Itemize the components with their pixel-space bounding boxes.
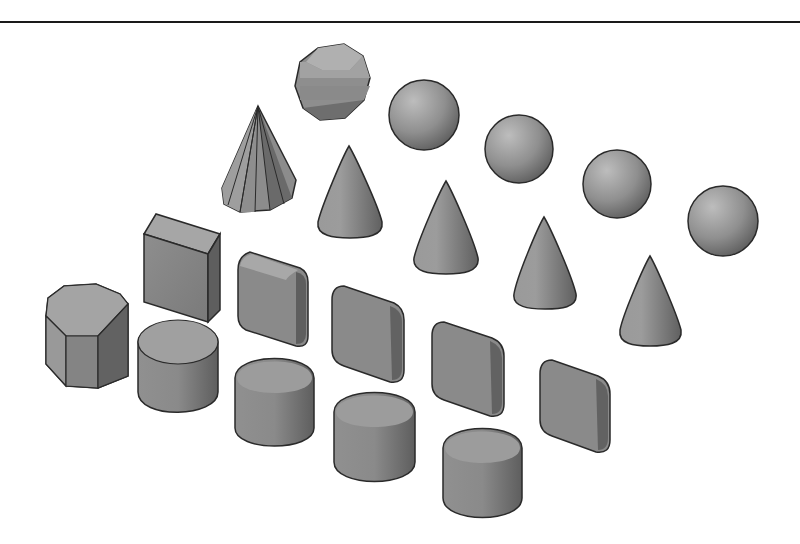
box-rounded-3 <box>432 322 504 416</box>
cone-4 <box>514 217 576 309</box>
cylinder-2 <box>235 359 314 447</box>
cone-faceted <box>222 106 296 212</box>
box-rounded-1 <box>238 252 308 346</box>
octagonal-prism <box>46 284 128 388</box>
sphere-faceted <box>295 44 370 120</box>
box-rounded-2 <box>332 286 404 382</box>
cylinder-4 <box>443 429 522 518</box>
box-rounded-4 <box>540 360 610 452</box>
cone-3 <box>414 181 478 274</box>
shapes-scene: } <box>0 0 800 544</box>
box-sharp <box>144 214 220 322</box>
sphere-4 <box>583 150 651 218</box>
sphere-3 <box>485 115 553 183</box>
cylinder-3: } <box>334 393 415 482</box>
cone-2 <box>318 146 382 238</box>
cone-5 <box>620 256 681 346</box>
cylinder-faceted <box>138 320 218 412</box>
sphere-2 <box>389 80 459 150</box>
sphere-5 <box>688 186 758 256</box>
